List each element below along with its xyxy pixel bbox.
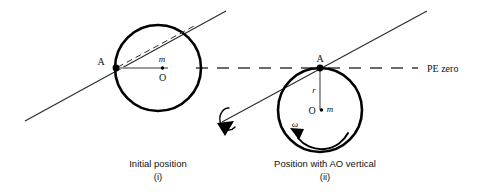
point-a-label-initial: A: [97, 56, 105, 67]
center-o-marker-initial: [161, 66, 164, 69]
center-o-marker-vertical: [320, 108, 323, 111]
caption-initial: Initial position: [129, 158, 187, 169]
curl-arrowhead: [217, 121, 234, 136]
omega-label: ω: [292, 119, 298, 129]
axis-rotation-curl-arrow: [217, 108, 235, 136]
dashed-chord-initial: [118, 25, 196, 67]
caption-vertical: Position with AO vertical: [274, 158, 376, 169]
inclined-axis-right: [222, 11, 427, 122]
point-a-label-vertical: A: [316, 53, 324, 64]
mass-label-initial: m: [159, 54, 166, 64]
omega-arrowhead: [290, 128, 304, 140]
enumeration-initial: (i): [154, 171, 162, 182]
center-o-label-initial: O: [159, 72, 166, 83]
figure-canvas: A m O Initial position (i) A r O m: [0, 0, 489, 194]
physics-figure: A m O Initial position (i) A r O m: [0, 0, 489, 194]
point-a-marker-initial: [113, 65, 120, 72]
point-a-marker-vertical: [317, 65, 324, 72]
mass-label-vertical: m: [327, 104, 334, 114]
pe-zero-label: PE zero: [427, 63, 458, 74]
panel-vertical-group: A r O m ω Position with AO vertical (ii): [274, 53, 376, 182]
inclined-axis-left: [25, 11, 226, 121]
radius-label-vertical: r: [312, 85, 316, 95]
enumeration-vertical: (ii): [320, 171, 331, 182]
center-o-label-vertical: O: [308, 105, 315, 116]
panel-initial-group: A m O Initial position (i): [97, 25, 201, 182]
